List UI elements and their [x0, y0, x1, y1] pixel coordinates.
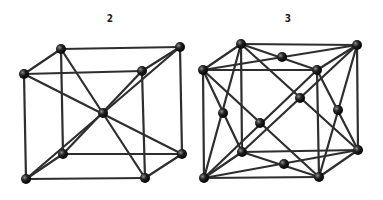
atom-fbr — [140, 173, 150, 183]
atom-btl — [56, 44, 66, 54]
atom-fbr — [314, 172, 324, 182]
atom-top — [277, 52, 287, 62]
bond-line — [24, 71, 142, 74]
atom-right — [333, 105, 343, 115]
atom-fbl — [199, 173, 209, 183]
bond-line — [145, 154, 182, 178]
lattice-figure-2: 2 — [19, 13, 187, 184]
atom-bbl — [237, 147, 247, 157]
bond-line — [242, 150, 358, 152]
atom-bbr — [177, 149, 187, 159]
bond-line — [241, 44, 357, 45]
atom-ftr — [312, 65, 322, 75]
bond-line — [61, 47, 180, 49]
atom-front — [255, 118, 265, 128]
atom-left — [218, 108, 228, 118]
atom-bbl — [58, 149, 68, 159]
bond-line — [317, 70, 319, 177]
crystal-lattice-diagram: 2 3 — [0, 0, 383, 200]
bond-line — [180, 47, 182, 154]
atom-btr — [175, 42, 185, 52]
lattice-figure-3: 3 — [198, 13, 363, 183]
bond-line — [61, 49, 63, 154]
atom-btl — [236, 39, 246, 49]
bond-line — [142, 71, 145, 178]
atom-btr — [352, 40, 362, 50]
atom-c — [98, 108, 108, 118]
figure-label: 3 — [285, 13, 291, 24]
figure-label: 2 — [107, 13, 113, 24]
bond-line — [204, 177, 319, 178]
bond-line — [357, 45, 358, 150]
bond-line — [26, 178, 145, 179]
atom-ftl — [198, 65, 208, 75]
atom-fbl — [21, 174, 31, 184]
bond-line — [24, 74, 26, 179]
bond-line — [241, 44, 242, 152]
atom-bottom — [279, 159, 289, 169]
atom-ftl — [19, 69, 29, 79]
bond-line — [203, 70, 204, 178]
atom-bbr — [353, 145, 363, 155]
bond-line — [24, 49, 61, 74]
atom-back — [295, 93, 305, 103]
atom-ftr — [137, 66, 147, 76]
